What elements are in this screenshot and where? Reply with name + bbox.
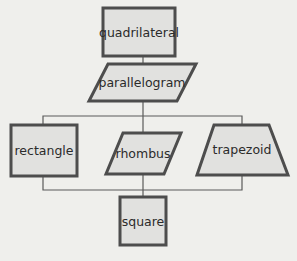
parallelogram-label: parallelogram [98, 75, 185, 90]
node-rectangle: rectangle [11, 125, 77, 176]
trapezoid-label: trapezoid [213, 142, 272, 157]
node-trapezoid: trapezoid [197, 125, 288, 175]
quadrilateral-hierarchy-diagram: quadrilateral parallelogram rectangle rh… [0, 0, 297, 261]
node-quadrilateral: quadrilateral [99, 8, 179, 56]
node-rhombus: rhombus [106, 133, 181, 174]
rhombus-label: rhombus [115, 146, 170, 161]
quadrilateral-label: quadrilateral [99, 25, 179, 40]
rectangle-label: rectangle [14, 143, 73, 158]
square-label: square [122, 214, 165, 229]
node-square: square [120, 197, 166, 245]
node-parallelogram: parallelogram [89, 64, 196, 101]
